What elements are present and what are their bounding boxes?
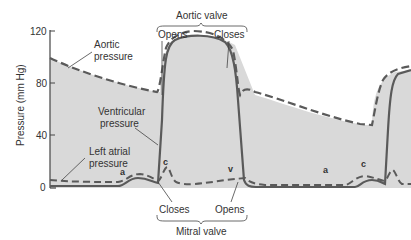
left-atrial-pressure-label: Left atrial bbox=[89, 146, 130, 157]
aortic-valve-opens-label: Opens bbox=[158, 29, 187, 40]
aortic-pressure-leader bbox=[68, 52, 92, 68]
aortic-valve-closes-label: Closes bbox=[214, 29, 245, 40]
y-axis-label: Pressure (mm Hg) bbox=[15, 64, 26, 146]
wave-c-label-2: c bbox=[361, 159, 366, 169]
ventricular-pressure-label-2: pressure bbox=[100, 118, 139, 129]
mitral-valve-closes-label: Closes bbox=[159, 204, 190, 215]
tick-label-120: 120 bbox=[30, 26, 47, 37]
ventricular-pressure-label: Ventricular bbox=[98, 106, 146, 117]
tick-label-0: 0 bbox=[40, 182, 46, 193]
aortic-valve-label: Aortic valve bbox=[176, 10, 228, 21]
wave-v-label: v bbox=[228, 164, 233, 174]
mitral-valve-opens-label: Opens bbox=[215, 204, 244, 215]
tick-label-40: 40 bbox=[36, 130, 48, 141]
mitral-valve-bracket bbox=[157, 215, 247, 224]
tick-label-80: 80 bbox=[36, 78, 48, 89]
wave-c-label-1: c bbox=[163, 157, 168, 167]
aortic-pressure-label-2: pressure bbox=[94, 51, 133, 62]
aortic-pressure-label: Aortic bbox=[94, 39, 120, 50]
mitral-valve-label: Mitral valve bbox=[176, 226, 227, 237]
cardiac-pressure-diagram: 120 80 40 0 Pressure (mm Hg) Aortic pres… bbox=[0, 0, 411, 240]
